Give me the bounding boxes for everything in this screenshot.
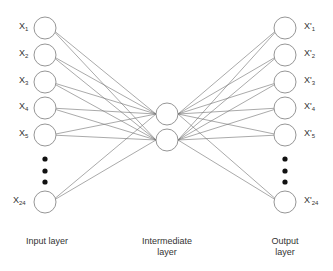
input-node-1 [34, 17, 56, 39]
node-label-text: X' [304, 48, 312, 58]
edge [178, 31, 275, 114]
intermediate-node-1 [156, 103, 178, 125]
edge [178, 58, 275, 140]
network-diagram [0, 0, 333, 271]
output-layer-caption: Output layer [262, 236, 308, 258]
edge [178, 114, 275, 198]
edge [55, 57, 156, 114]
input-node-label: X1 [19, 21, 28, 32]
input-node-label: X2 [19, 48, 28, 59]
edge [55, 135, 156, 140]
input-node-5 [34, 124, 56, 146]
edge [178, 84, 275, 140]
output-node-2 [274, 44, 296, 66]
edge [55, 109, 156, 140]
ellipsis-dot [282, 168, 287, 173]
output-node-label: X'3 [304, 75, 315, 86]
output-node-3 [274, 71, 296, 93]
intermediate-node-2 [156, 129, 178, 151]
node-label-text: X' [304, 128, 312, 138]
input-node-label: X5 [19, 128, 28, 139]
input-node-label: X4 [19, 101, 28, 112]
intermediate-caption-line1: Intermediate [142, 236, 192, 246]
output-node-1 [274, 17, 296, 39]
output-node-label: X'24 [304, 195, 318, 206]
output-node-label: X'1 [304, 21, 315, 32]
output-node-label: X'2 [304, 48, 315, 59]
input-node-3 [34, 71, 56, 93]
intermediate-caption-line2: layer [157, 247, 177, 257]
output-node-4 [274, 97, 296, 119]
node-label-text: X' [304, 75, 312, 85]
ellipsis-dot [42, 168, 47, 173]
input-node-label: X24 [13, 195, 26, 206]
output-node-24 [274, 191, 296, 213]
intermediate-layer-caption: Intermediate layer [130, 236, 204, 258]
edge [55, 84, 156, 140]
edge [55, 140, 156, 200]
input-node-2 [34, 44, 56, 66]
node-label-subscript: 24 [312, 200, 319, 206]
edge [178, 140, 275, 200]
edge [178, 57, 275, 114]
node-label-subscript: 3 [25, 80, 28, 86]
node-label-subscript: 24 [19, 200, 26, 206]
edge [178, 109, 275, 140]
node-label-subscript: 1 [25, 26, 28, 32]
output-caption-line1: Output [271, 236, 298, 246]
edge [55, 31, 156, 114]
ellipsis-dot [282, 179, 287, 184]
input-node-label: X3 [19, 75, 28, 86]
input-node-24 [34, 191, 56, 213]
node-label-subscript: 2 [312, 53, 315, 59]
ellipsis-dot [42, 156, 47, 161]
output-node-label: X'5 [304, 128, 315, 139]
node-label-subscript: 4 [25, 106, 28, 112]
node-label-subscript: 5 [312, 133, 315, 139]
input-node-4 [34, 97, 56, 119]
ellipsis-dot [282, 156, 287, 161]
node-label-subscript: 5 [25, 133, 28, 139]
output-node-5 [274, 124, 296, 146]
node-label-subscript: 3 [312, 80, 315, 86]
edge [55, 58, 156, 140]
node-label-text: X' [304, 101, 312, 111]
node-label-subscript: 1 [312, 26, 315, 32]
node-label-subscript: 2 [25, 53, 28, 59]
output-node-label: X'4 [304, 101, 315, 112]
node-label-text: X' [304, 21, 312, 31]
output-caption-line2: layer [275, 247, 295, 257]
node-label-text: X' [304, 195, 312, 205]
edge [178, 135, 275, 140]
edge [55, 114, 156, 198]
ellipsis-dot [42, 179, 47, 184]
input-layer-caption: Input layer [12, 236, 82, 247]
node-label-subscript: 4 [312, 106, 315, 112]
